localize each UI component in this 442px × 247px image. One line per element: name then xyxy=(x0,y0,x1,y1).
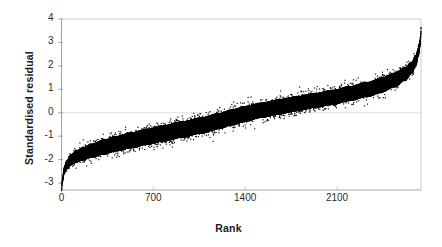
y-tick-label: 1 xyxy=(28,82,54,93)
y-tick-label: -3 xyxy=(28,176,54,187)
scatter-plot-canvas xyxy=(0,0,442,247)
x-axis-title: Rank xyxy=(161,222,296,234)
y-tick-label: -1 xyxy=(28,129,54,140)
y-tick-label: 0 xyxy=(28,106,54,117)
x-tick-label: 700 xyxy=(133,192,173,203)
y-tick-label: 4 xyxy=(28,12,54,23)
x-tick-label: 0 xyxy=(42,192,82,203)
x-tick-label: 1400 xyxy=(225,192,265,203)
chart-figure: Standardised residual Rank -3-2-101234 0… xyxy=(0,0,442,247)
y-tick-label: 3 xyxy=(28,35,54,46)
x-tick-label: 2100 xyxy=(317,192,357,203)
y-tick-label: 2 xyxy=(28,59,54,70)
y-tick-label: -2 xyxy=(28,153,54,164)
